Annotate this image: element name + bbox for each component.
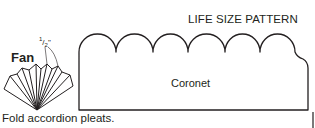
fan-diagram xyxy=(4,64,73,110)
fan-label: Fan xyxy=(11,50,34,65)
measure-unit: " xyxy=(48,38,51,47)
measure-leaders xyxy=(45,47,58,66)
measurement-label: 1/2" xyxy=(39,36,51,48)
coronet-label: Coronet xyxy=(171,77,210,89)
page-title: LIFE SIZE PATTERN xyxy=(188,13,298,25)
instruction-caption: Fold accordion pleats. xyxy=(2,112,115,124)
coronet-outline xyxy=(79,34,308,110)
